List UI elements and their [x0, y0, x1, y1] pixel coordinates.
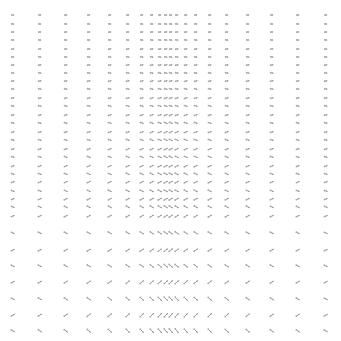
quiver-arrow [64, 156, 68, 158]
quiver-arrow [207, 165, 211, 167]
quiver-arrow [168, 215, 172, 218]
quiver-arrow [140, 114, 144, 116]
quiver-arrow [157, 148, 161, 150]
quiver-arrow [270, 88, 274, 90]
quiver-arrow [63, 231, 67, 234]
quiver-arrow [245, 314, 249, 318]
quiver-arrow [139, 198, 143, 201]
quiver-arrow [108, 48, 111, 50]
quiver-arrow [37, 329, 41, 332]
quiver-arrow [184, 23, 187, 25]
quiver-arrow [169, 114, 173, 116]
quiver-arrow [174, 205, 178, 208]
quiver-arrow [139, 189, 143, 192]
quiver-arrow [207, 328, 211, 332]
quiver-arrow [169, 97, 173, 99]
quiver-arrow [108, 97, 112, 99]
quiver-arrow [163, 296, 167, 300]
quiver-arrow [246, 165, 250, 167]
quiver-arrow [207, 172, 211, 175]
quiver-arrow [324, 88, 328, 90]
quiver-arrow [164, 114, 168, 116]
quiver-arrow [64, 189, 68, 191]
quiver-arrow [140, 56, 144, 58]
quiver-arrow [108, 156, 112, 158]
quiver-arrow [107, 313, 111, 317]
quiver-arrow [140, 105, 144, 107]
quiver-arrow [174, 198, 178, 201]
quiver-arrow [270, 72, 274, 74]
quiver-arrow [86, 215, 90, 218]
quiver-arrow [269, 281, 273, 284]
quiver-arrow [324, 23, 327, 25]
quiver-arrow [224, 172, 228, 174]
quiver-arrow [87, 131, 91, 133]
quiver-arrow [158, 114, 162, 116]
quiver-arrow [168, 181, 172, 184]
quiver-arrow [38, 215, 42, 217]
quiver-arrow [184, 56, 188, 58]
quiver-arrow [126, 105, 130, 107]
quiver-arrow [246, 80, 250, 82]
quiver-arrow [164, 48, 168, 50]
quiver-arrow [324, 122, 328, 124]
quiver-arrow [296, 80, 300, 82]
quiver-arrow [245, 172, 249, 174]
quiver-arrow [324, 64, 327, 66]
quiver-arrow [194, 122, 198, 124]
quiver-arrow [163, 198, 167, 201]
quiver-arrow [175, 105, 179, 107]
quiver-arrow [149, 148, 153, 150]
quiver-arrow [296, 148, 300, 150]
quiver-arrow [125, 189, 129, 192]
quiver-arrow [139, 148, 143, 150]
quiver-arrow [208, 72, 212, 74]
quiver-arrow [169, 39, 172, 41]
quiver-arrow [11, 97, 15, 99]
quiver-arrow [175, 122, 179, 124]
quiver-arrow [295, 231, 299, 233]
quiver-arrow [10, 297, 14, 300]
quiver-arrow [174, 148, 178, 150]
quiver-arrow [38, 181, 42, 183]
quiver-arrow [139, 155, 143, 157]
quiver-arrow [207, 297, 211, 301]
quiver-arrow [164, 64, 168, 66]
quiver-arrow [225, 14, 228, 16]
quiver-arrow [324, 206, 328, 208]
quiver-arrow [175, 39, 178, 41]
quiver-arrow [175, 56, 179, 58]
quiver-arrow [193, 205, 197, 208]
quiver-arrow [183, 296, 187, 300]
quiver-arrow [163, 231, 167, 234]
quiver-arrow [246, 131, 250, 133]
quiver-arrow [184, 72, 188, 74]
quiver-arrow [108, 23, 111, 25]
quiver-arrow [11, 64, 14, 66]
quiver-arrow [324, 72, 327, 74]
quiver-arrow [270, 48, 273, 50]
quiver-arrow [224, 281, 228, 285]
quiver-arrow [140, 97, 144, 99]
quiver-arrow [38, 56, 41, 58]
quiver-arrow [225, 31, 228, 33]
quiver-arrow [296, 23, 299, 25]
quiver-arrow [164, 105, 168, 107]
quiver-arrow [324, 39, 327, 41]
quiver-arrow [324, 80, 327, 82]
quiver-arrow [157, 328, 161, 333]
quiver-arrow [295, 264, 299, 267]
quiver-arrow [208, 105, 212, 107]
quiver-arrow [140, 48, 144, 50]
quiver-arrow [208, 14, 211, 16]
quiver-arrow [207, 148, 211, 150]
quiver-arrow [37, 231, 41, 233]
quiver-arrow [184, 88, 188, 90]
quiver-arrow [208, 39, 211, 41]
quiver-arrow [169, 88, 173, 90]
quiver-arrow [87, 72, 91, 74]
quiver-arrow [157, 231, 161, 234]
quiver-arrow [168, 172, 172, 175]
quiver-arrow [149, 172, 153, 175]
quiver-arrow [38, 131, 42, 133]
